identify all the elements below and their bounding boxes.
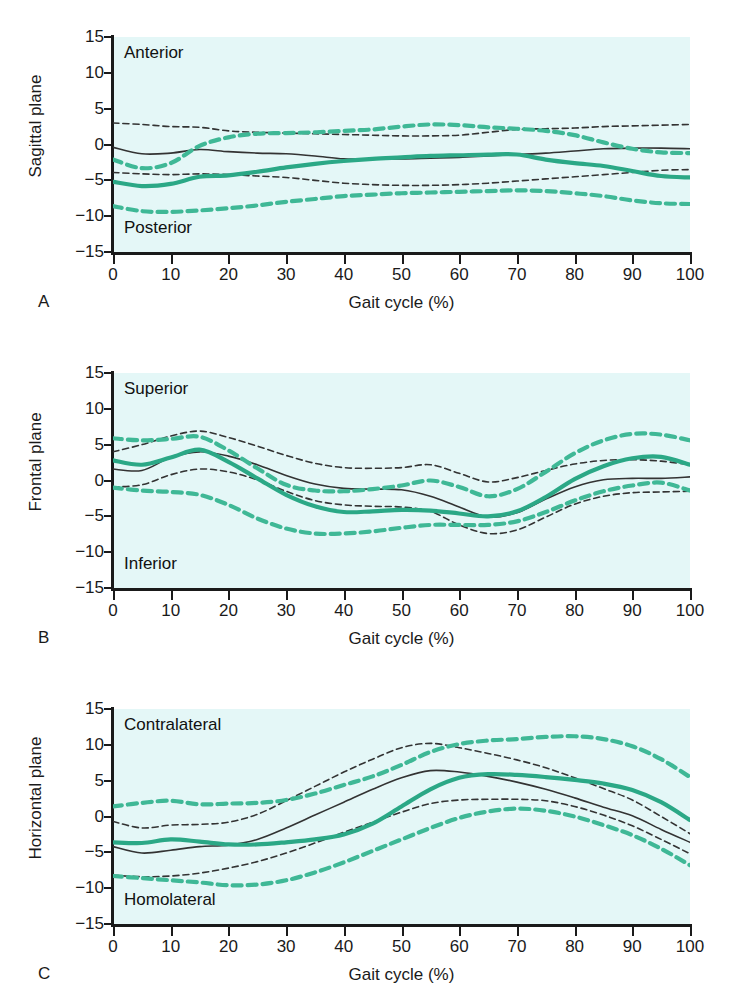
y-tick-label: 10 <box>62 399 104 419</box>
y-tick-label: −15 <box>62 914 104 934</box>
x-tick-mark <box>113 255 115 264</box>
annotation-bottom: Posterior <box>124 218 192 238</box>
x-tick-label: 20 <box>219 937 238 957</box>
x-tick-mark <box>517 927 519 936</box>
x-tick-label: 90 <box>623 265 642 285</box>
x-tick-label: 80 <box>565 937 584 957</box>
x-tick-mark <box>286 255 288 264</box>
x-tick-label: 90 <box>623 601 642 621</box>
x-tick-label: 20 <box>219 601 238 621</box>
x-tick-label: 70 <box>507 601 526 621</box>
y-axis-ticks: 151050−5−10−15 <box>58 672 104 932</box>
curve-normal-sd-lower <box>113 469 690 534</box>
annotation-bottom: Homolateral <box>124 890 216 910</box>
panel-letter: C <box>38 964 50 984</box>
x-tick-mark <box>632 255 634 264</box>
x-tick-label: 0 <box>108 937 117 957</box>
y-axis-title-text: Frontal plane <box>26 412 46 511</box>
x-tick-mark <box>402 591 404 600</box>
y-tick-label: 10 <box>62 735 104 755</box>
x-tick-mark <box>171 591 173 600</box>
y-tick-label: 5 <box>62 99 104 119</box>
y-axis-title-text: Horizontal plane <box>26 737 46 860</box>
y-axis-title: Sagittal plane <box>22 0 50 252</box>
x-tick-mark <box>286 927 288 936</box>
panel-letter: B <box>38 628 49 648</box>
y-tick-label: 10 <box>62 63 104 83</box>
y-tick-label: 0 <box>62 807 104 827</box>
x-tick-mark <box>113 927 115 936</box>
x-tick-label: 30 <box>277 601 296 621</box>
x-tick-mark <box>228 255 230 264</box>
panel-sagittal-plane: Sagittal plane151050−5−10−15010203040506… <box>0 0 729 336</box>
x-tick-label: 50 <box>392 601 411 621</box>
y-tick-label: −15 <box>62 242 104 262</box>
x-tick-mark <box>575 255 577 264</box>
x-tick-label: 40 <box>334 265 353 285</box>
x-tick-mark <box>690 927 692 936</box>
x-tick-label: 60 <box>450 601 469 621</box>
panel-horizontal-plane: Horizontal plane151050−5−10−150102030405… <box>0 672 729 1008</box>
x-tick-label: 60 <box>450 265 469 285</box>
curve-patient-mean <box>113 154 690 186</box>
x-tick-mark <box>632 927 634 936</box>
panel-letter: A <box>38 292 49 312</box>
x-tick-mark <box>171 927 173 936</box>
curve-normal-sd-upper <box>113 123 690 136</box>
x-tick-mark <box>344 591 346 600</box>
curve-patient-sd-upper <box>113 124 690 168</box>
x-tick-mark <box>517 255 519 264</box>
x-tick-mark <box>459 591 461 600</box>
y-tick-label: 15 <box>62 363 104 383</box>
x-tick-mark <box>171 255 173 264</box>
x-axis-title: Gait cycle (%) <box>113 965 690 985</box>
x-tick-label: 0 <box>108 265 117 285</box>
x-tick-label: 50 <box>392 937 411 957</box>
y-tick-label: 15 <box>62 27 104 47</box>
x-tick-label: 30 <box>277 937 296 957</box>
x-tick-label: 80 <box>565 601 584 621</box>
x-tick-label: 80 <box>565 265 584 285</box>
curve-normal-sd-upper <box>113 431 690 482</box>
y-tick-label: −10 <box>62 206 104 226</box>
y-tick-label: 0 <box>62 135 104 155</box>
x-tick-label: 50 <box>392 265 411 285</box>
annotation-bottom: Inferior <box>124 554 177 574</box>
y-tick-label: 5 <box>62 771 104 791</box>
x-tick-mark <box>402 255 404 264</box>
y-axis-title: Horizontal plane <box>22 672 50 924</box>
x-tick-mark <box>459 927 461 936</box>
x-tick-label: 10 <box>161 265 180 285</box>
annotation-top: Contralateral <box>124 715 221 735</box>
x-tick-label: 40 <box>334 937 353 957</box>
x-tick-label: 10 <box>161 937 180 957</box>
curve-group <box>113 37 690 252</box>
x-tick-mark <box>286 591 288 600</box>
x-tick-label: 20 <box>219 265 238 285</box>
x-tick-mark <box>690 591 692 600</box>
x-tick-mark <box>228 591 230 600</box>
x-axis-title: Gait cycle (%) <box>113 293 690 313</box>
x-tick-label: 100 <box>676 601 704 621</box>
x-tick-label: 70 <box>507 937 526 957</box>
curve-normal-sd-upper <box>113 743 690 833</box>
x-tick-mark <box>690 255 692 264</box>
y-axis-ticks: 151050−5−10−15 <box>58 336 104 596</box>
curve-patient-sd-lower <box>113 190 690 212</box>
x-tick-label: 40 <box>334 601 353 621</box>
y-axis-title-text: Sagittal plane <box>26 74 46 177</box>
x-tick-label: 10 <box>161 601 180 621</box>
curve-normal-sd-lower <box>113 799 690 877</box>
y-tick-label: −10 <box>62 878 104 898</box>
x-tick-label: 0 <box>108 601 117 621</box>
x-tick-mark <box>632 591 634 600</box>
x-tick-mark <box>113 591 115 600</box>
x-tick-label: 90 <box>623 937 642 957</box>
x-tick-mark <box>575 927 577 936</box>
x-tick-mark <box>459 255 461 264</box>
x-tick-mark <box>344 255 346 264</box>
y-axis-ticks: 151050−5−10−15 <box>58 0 104 260</box>
x-tick-mark <box>228 927 230 936</box>
x-tick-mark <box>402 927 404 936</box>
y-axis-title: Frontal plane <box>22 336 50 588</box>
